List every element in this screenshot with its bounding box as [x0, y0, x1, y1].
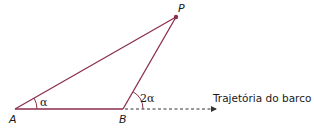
- label-b: B: [119, 113, 127, 126]
- triangle-diagram: A B P α 2α Trajetória do barco: [0, 0, 314, 128]
- angle-label-b: 2α: [140, 92, 155, 105]
- trajectory-label: Trajetória do barco: [212, 92, 311, 104]
- angle-label-a: α: [40, 96, 48, 109]
- point-p-dot: [174, 15, 178, 19]
- label-a: A: [8, 113, 17, 126]
- angle-arc-a: [34, 98, 37, 109]
- label-p: P: [178, 2, 185, 15]
